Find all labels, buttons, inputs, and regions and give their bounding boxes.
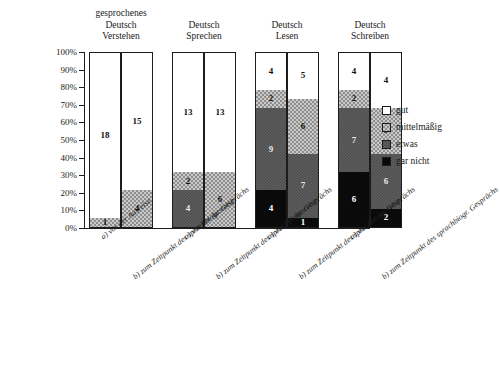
group-header: Deutsch Schreiben xyxy=(326,20,414,42)
legend-label: mittelmäßig xyxy=(396,122,442,132)
legend-swatch-icon xyxy=(382,123,391,132)
y-tick-label: 80% xyxy=(61,82,78,92)
bar-segment-gut: 13 xyxy=(173,53,203,172)
bar-segment-gut: 15 xyxy=(122,53,152,190)
legend-label: gut xyxy=(396,105,408,115)
y-tick-mark xyxy=(79,70,84,71)
bar-segment-mittel: 2 xyxy=(339,90,369,108)
group-header: Deutsch Sprechen xyxy=(160,20,248,42)
segment-value-label: 5 xyxy=(301,71,306,80)
segment-value-label: 2 xyxy=(352,94,357,103)
group-header: gesprochenes Deutsch Verstehen xyxy=(77,8,165,42)
stacked-bar[interactable]: 4213 xyxy=(172,52,204,228)
segment-value-label: 6 xyxy=(301,122,306,131)
bar-segment-gut: 18 xyxy=(90,53,120,218)
y-tick-label: 50% xyxy=(61,135,78,145)
segment-value-label: 15 xyxy=(133,117,142,126)
y-tick-mark xyxy=(79,193,84,194)
group-header-row: gesprochenes Deutsch VerstehenDeutsch Sp… xyxy=(0,0,453,46)
segment-value-label: 4 xyxy=(269,67,274,76)
y-tick-mark xyxy=(79,87,84,88)
legend-item[interactable]: gar nicht xyxy=(382,156,442,166)
y-tick-label: 10% xyxy=(61,205,78,215)
segment-value-label: 2 xyxy=(186,177,191,186)
legend-swatch-icon xyxy=(382,157,391,166)
y-tick-mark xyxy=(79,52,84,53)
legend-item[interactable]: gut xyxy=(382,105,442,115)
segment-value-label: 1 xyxy=(103,218,108,227)
segment-value-label: 2 xyxy=(269,94,274,103)
y-tick-mark xyxy=(79,122,84,123)
segment-value-label: 7 xyxy=(301,181,306,190)
segment-value-label: 4 xyxy=(186,204,191,213)
y-tick-label: 60% xyxy=(61,117,78,127)
segment-value-label: 6 xyxy=(384,177,389,186)
stacked-bar[interactable]: 118 xyxy=(89,52,121,228)
segment-value-label: 1 xyxy=(301,218,306,227)
y-tick-label: 40% xyxy=(61,153,78,163)
segment-value-label: 4 xyxy=(352,67,357,76)
stacked-bar[interactable]: 6724 xyxy=(338,52,370,228)
bar-segment-gut: 5 xyxy=(288,53,318,99)
y-tick-mark xyxy=(79,158,84,159)
legend-item[interactable]: mittelmäßig xyxy=(382,122,442,132)
legend-item[interactable]: etwas xyxy=(382,139,442,149)
segment-value-label: 13 xyxy=(184,108,193,117)
y-tick-mark xyxy=(79,105,84,106)
segment-value-label: 7 xyxy=(352,136,357,145)
y-tick-mark xyxy=(79,140,84,141)
y-axis-line xyxy=(84,52,85,228)
legend-label: etwas xyxy=(396,139,418,149)
segment-value-label: 4 xyxy=(269,204,274,213)
bar-segment-garnicht: 6 xyxy=(339,172,369,227)
bar-segment-gut: 13 xyxy=(205,53,235,172)
chart-legend: gutmittelmäßigetwasgar nicht xyxy=(382,105,442,173)
segment-value-label: 18 xyxy=(101,131,110,140)
y-tick-label: 90% xyxy=(61,65,78,75)
y-tick-label: 70% xyxy=(61,100,78,110)
group-header: Deutsch Lesen xyxy=(243,20,331,42)
bar-segment-mittel: 2 xyxy=(256,90,286,108)
legend-label: gar nicht xyxy=(396,156,430,166)
segment-value-label: 9 xyxy=(269,145,274,154)
bar-segment-etwas: 9 xyxy=(256,108,286,190)
bar-segment-mittel: 6 xyxy=(288,99,318,154)
legend-swatch-icon xyxy=(382,106,391,115)
bar-segment-gut: 4 xyxy=(256,53,286,90)
segment-value-label: 6 xyxy=(352,195,357,204)
segment-value-label: 13 xyxy=(216,108,225,117)
y-tick-mark xyxy=(79,175,84,176)
y-tick-mark xyxy=(79,210,84,211)
x-axis-labels: a) vor der Ausreiseb) zum Zeitpunkt des … xyxy=(0,228,453,384)
bar-segment-gut: 4 xyxy=(339,53,369,90)
y-tick-label: 20% xyxy=(61,188,78,198)
bar-segment-etwas: 7 xyxy=(339,108,369,172)
y-tick-label: 100% xyxy=(56,47,77,57)
y-tick-label: 30% xyxy=(61,170,78,180)
segment-value-label: 4 xyxy=(384,76,389,85)
bar-segment-gut: 4 xyxy=(371,53,401,108)
stacked-bar[interactable]: 4924 xyxy=(255,52,287,228)
legend-swatch-icon xyxy=(382,140,391,149)
bar-segment-mittel: 2 xyxy=(173,172,203,190)
